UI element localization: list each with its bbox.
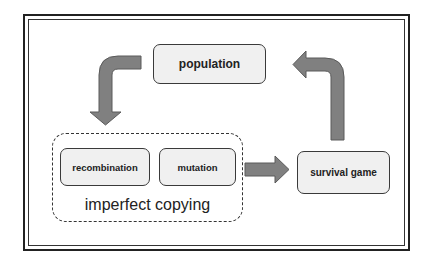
arrow-survival-to-population	[293, 51, 344, 140]
mutation-node: mutation	[159, 148, 236, 186]
population-label: population	[179, 57, 240, 71]
population-node: population	[153, 44, 266, 84]
recombination-label: recombination	[72, 162, 137, 173]
recombination-node: recombination	[60, 148, 150, 186]
survival-game-label: survival game	[310, 167, 377, 178]
arrow-copying-to-survival	[245, 156, 289, 183]
imperfect-copying-label: imperfect copying	[52, 196, 243, 214]
mutation-label: mutation	[177, 162, 217, 173]
arrow-population-to-copying	[90, 56, 141, 125]
survival-game-node: survival game	[297, 151, 390, 194]
